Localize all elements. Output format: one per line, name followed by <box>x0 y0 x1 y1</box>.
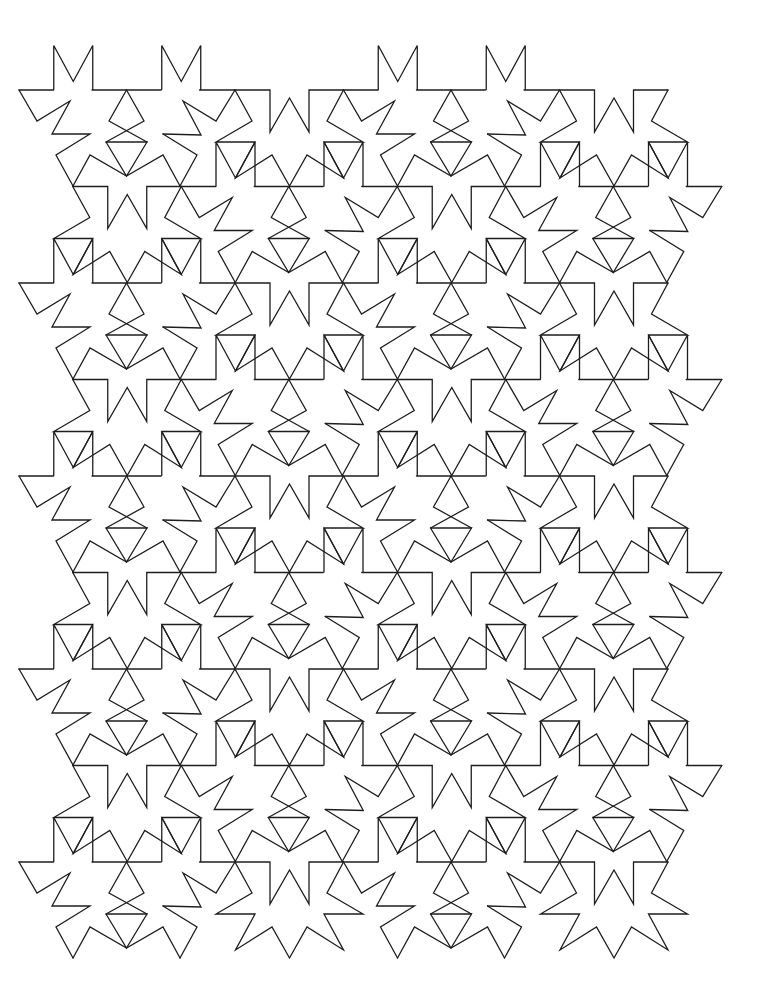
page-background <box>0 0 764 1001</box>
tessellation-pattern <box>0 0 764 1001</box>
coloring-page: Nine-pointed star tessellation (line art… <box>0 0 764 1001</box>
